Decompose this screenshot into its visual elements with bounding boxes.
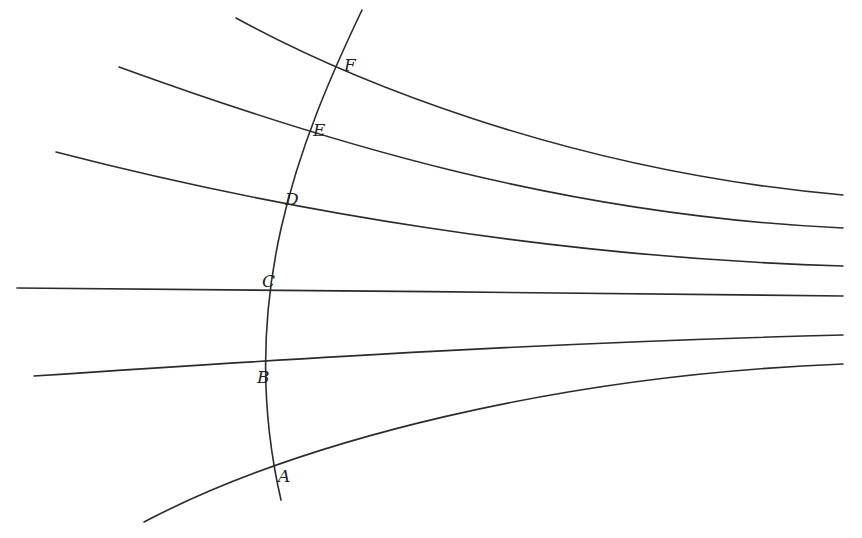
point-label-f: F <box>343 55 357 75</box>
point-label-c: C <box>262 271 275 291</box>
line-a <box>144 364 843 522</box>
line-b <box>34 335 843 376</box>
point-label-d: D <box>284 189 299 209</box>
diagram-canvas: F E D C B A <box>0 0 862 538</box>
line-c <box>17 288 843 296</box>
point-label-b: B <box>256 367 270 387</box>
line-e <box>119 67 843 228</box>
point-label-e: E <box>312 120 326 140</box>
line-f <box>236 18 843 195</box>
point-label-a: A <box>276 466 290 486</box>
crossing-arc <box>265 10 362 500</box>
